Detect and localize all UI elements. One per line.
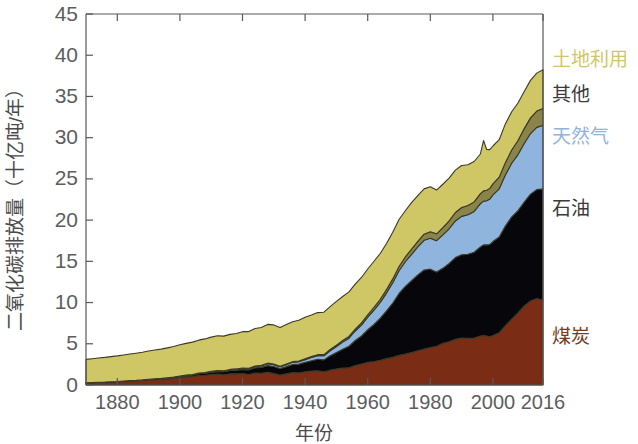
x-tick-label: 2016 [521,391,566,413]
legend-label-天然气: 天然气 [552,126,609,147]
legend-label-土地利用: 土地利用 [552,49,628,70]
y-tick-label: 30 [55,125,78,148]
chart-legend: 土地利用其他天然气石油煤炭 [552,49,628,347]
legend-label-其他: 其他 [552,84,590,105]
y-tick-label: 40 [55,43,78,66]
plot-areas [86,70,543,385]
y-tick-label: 35 [55,84,78,107]
stacked-area-chart: 051015202530354045 188019001920194019601… [0,0,638,444]
y-axis-title: 二氧化碳排放量（十亿吨/年） [5,79,26,331]
x-tick-label: 1880 [95,391,140,413]
y-tick-label: 10 [55,290,78,313]
y-tick-label: 45 [55,2,78,25]
y-tick-label: 15 [55,249,78,272]
chart-figure: 051015202530354045 188019001920194019601… [0,0,638,444]
y-tick-label: 25 [55,166,78,189]
x-tick-label: 1900 [158,391,203,413]
x-tick-label: 1940 [283,391,328,413]
y-tick-label: 0 [66,373,78,396]
x-tick-label: 2000 [471,391,516,413]
y-tick-labels: 051015202530354045 [55,2,78,396]
x-tick-labels: 18801900192019401960198020002016 [95,391,565,413]
x-tick-label: 1980 [408,391,453,413]
x-tick-label: 1960 [345,391,390,413]
x-axis-title: 年份 [295,423,333,444]
x-tick-label: 1920 [220,391,265,413]
y-tick-label: 20 [55,208,78,231]
legend-label-石油: 石油 [552,198,590,219]
legend-label-煤炭: 煤炭 [552,326,590,347]
y-tick-label: 5 [66,331,78,354]
